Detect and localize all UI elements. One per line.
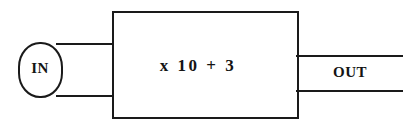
output-label: OUT: [333, 64, 367, 80]
function-machine-diagram: IN x 10 + 3 OUT: [0, 0, 416, 129]
operation-label: x 10 + 3: [160, 56, 236, 75]
input-label: IN: [31, 60, 49, 76]
diagram-canvas: IN x 10 + 3 OUT: [0, 0, 416, 129]
